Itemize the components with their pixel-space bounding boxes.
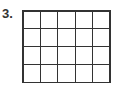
grid-cell [92, 64, 110, 83]
grid-cell [57, 28, 75, 47]
grid-cell [40, 64, 58, 83]
grid-cell [75, 64, 93, 83]
grid-cell [40, 46, 58, 65]
grid-cell [75, 11, 93, 30]
grid-cell [40, 28, 58, 47]
grid-cell [23, 46, 41, 65]
grid-cell [23, 11, 41, 30]
grid-cell [57, 11, 75, 30]
grid-diagram [22, 10, 111, 83]
grid-cell [57, 46, 75, 65]
grid-cell [92, 11, 110, 30]
grid-cell [75, 46, 93, 65]
grid-cell [92, 46, 110, 65]
grid-cell [40, 11, 58, 30]
grid-cell [57, 64, 75, 83]
grid-cell [92, 28, 110, 47]
grid-cell [23, 28, 41, 47]
grid-cell [23, 64, 41, 83]
problem-number: 3. [2, 6, 13, 21]
grid-cell [75, 28, 93, 47]
